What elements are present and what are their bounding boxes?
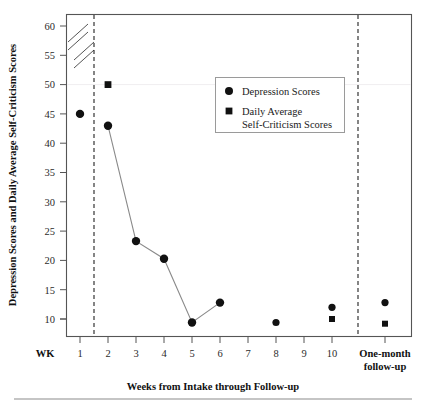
point-depression-wk6 xyxy=(216,298,224,306)
legend-square-icon xyxy=(226,108,233,115)
ytick-label-10: 10 xyxy=(45,314,56,325)
legend-label-selfcriticism-line1: Daily Average xyxy=(242,106,302,117)
ytick-label-40: 40 xyxy=(45,138,56,149)
depression-series-line xyxy=(108,126,220,323)
xtick-label-6: 6 xyxy=(217,348,222,359)
ytick-label-50: 50 xyxy=(45,79,56,90)
point-depression-wk3 xyxy=(132,237,140,245)
xtick-label-9: 9 xyxy=(301,348,306,359)
ytick-label-55: 55 xyxy=(45,50,56,61)
point-depression-wk10 xyxy=(328,304,335,311)
legend-circle-icon xyxy=(225,87,233,95)
ytick-label-30: 30 xyxy=(45,197,56,208)
xtick-label-followup-line1: One-month xyxy=(359,348,410,359)
point-depression-wk1 xyxy=(76,110,84,118)
legend: Depression Scores Daily Average Self-Cri… xyxy=(216,78,345,133)
xtick-label-4: 4 xyxy=(161,348,167,359)
ytick-label-45: 45 xyxy=(45,109,56,120)
chart-svg: 60 55 50 45 40 35 30 25 20 15 10 Depress… xyxy=(0,0,426,409)
ytick-label-25: 25 xyxy=(45,226,56,237)
xtick-label-2: 2 xyxy=(105,348,110,359)
ytick-label-35: 35 xyxy=(45,167,56,178)
point-selfcriticism-wk10 xyxy=(329,316,335,322)
xtick-label-10: 10 xyxy=(327,348,338,359)
point-depression-wk2 xyxy=(104,122,112,130)
xtick-label-3: 3 xyxy=(133,348,138,359)
legend-label-depression: Depression Scores xyxy=(242,86,320,97)
point-depression-wk4 xyxy=(160,255,168,263)
point-selfcriticism-wk2 xyxy=(105,81,112,88)
xtick-label-followup-line2: follow-up xyxy=(364,361,407,372)
ytick-label-15: 15 xyxy=(45,285,56,296)
xtick-label-7: 7 xyxy=(245,348,250,359)
point-depression-wk8 xyxy=(272,319,279,326)
xtick-label-5: 5 xyxy=(189,348,194,359)
x-axis-ticks xyxy=(80,337,385,344)
y-axis-break-icon xyxy=(68,24,94,68)
xtick-label-wk: WK xyxy=(36,348,56,359)
y-axis-title: Depression Scores and Daily Average Self… xyxy=(7,44,18,306)
x-axis-title: Weeks from Intake through Follow-up xyxy=(127,381,299,392)
point-depression-followup xyxy=(381,299,388,306)
y-axis-ticks xyxy=(60,26,67,319)
depression-series-points xyxy=(76,110,389,327)
xtick-label-1: 1 xyxy=(77,348,82,359)
figure-container: 60 55 50 45 40 35 30 25 20 15 10 Depress… xyxy=(0,0,426,409)
xtick-label-8: 8 xyxy=(273,348,278,359)
plot-frame xyxy=(67,15,412,337)
point-depression-wk5 xyxy=(188,318,196,326)
point-selfcriticism-followup xyxy=(382,321,388,327)
ytick-label-60: 60 xyxy=(45,21,56,32)
ytick-label-20: 20 xyxy=(45,255,56,266)
legend-label-selfcriticism-line2: Self-Criticism Scores xyxy=(242,119,332,130)
